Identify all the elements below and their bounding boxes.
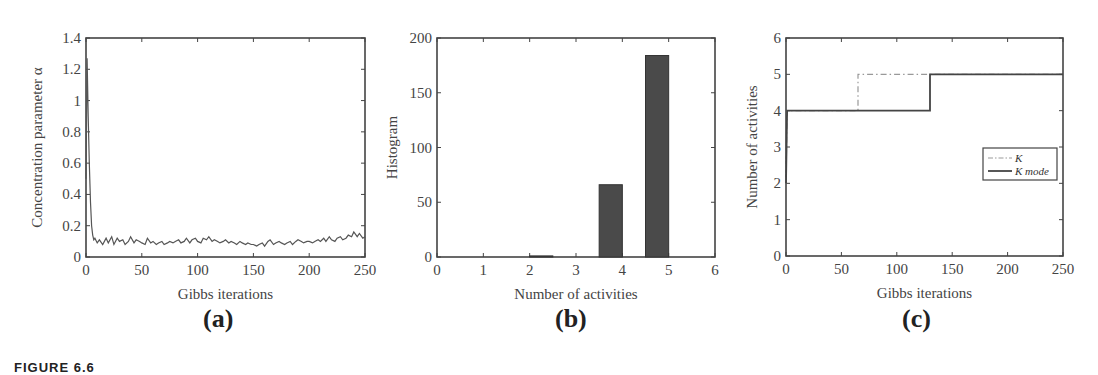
legend-label: K bbox=[1014, 152, 1023, 164]
plot-frame bbox=[786, 38, 1063, 256]
y-tick-label: 3 bbox=[774, 139, 782, 155]
legend: KK mode bbox=[983, 148, 1057, 180]
x-axis-label: Gibbs iterations bbox=[877, 285, 973, 301]
panel-label-c: (c) bbox=[902, 304, 931, 334]
y-tick-label: 2 bbox=[774, 175, 782, 191]
y-tick-label: 5 bbox=[774, 66, 782, 82]
figure-caption: FIGURE 6.6 bbox=[14, 360, 95, 375]
x-tick-label: 50 bbox=[834, 261, 849, 277]
x-tick-label: 0 bbox=[782, 261, 790, 277]
y-tick-label: 6 bbox=[774, 30, 782, 46]
x-tick-label: 200 bbox=[996, 261, 1019, 277]
x-tick-label: 100 bbox=[886, 261, 909, 277]
legend-label: K mode bbox=[1014, 165, 1049, 177]
y-axis-label: Number of activities bbox=[744, 85, 760, 208]
x-tick-label: 250 bbox=[1052, 261, 1075, 277]
y-tick-label: 1 bbox=[774, 212, 782, 228]
y-tick-label: 4 bbox=[774, 103, 782, 119]
y-tick-label: 0 bbox=[774, 248, 782, 264]
x-tick-label: 150 bbox=[941, 261, 964, 277]
